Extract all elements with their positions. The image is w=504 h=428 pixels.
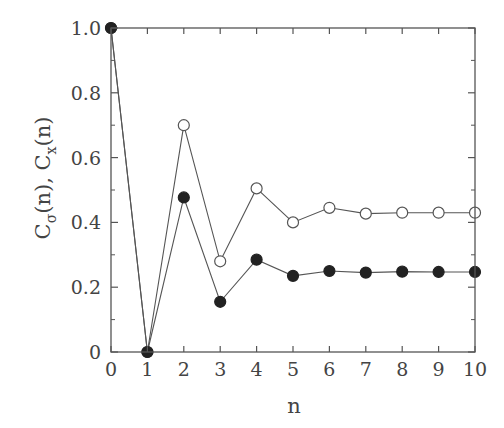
open-circle-marker — [360, 208, 371, 219]
y-tick-label: 0.8 — [71, 82, 101, 104]
open-circle-marker — [178, 120, 189, 131]
x-tick-label: 5 — [287, 358, 299, 380]
x-tick-label: 0 — [105, 358, 117, 380]
y-tick-label: 0.4 — [71, 211, 101, 233]
filled-circle-marker — [215, 296, 226, 307]
y-axis-title: Cσ(n), Cx(n) — [31, 117, 59, 240]
filled-circle-marker — [288, 270, 299, 281]
x-tick-label: 2 — [178, 358, 190, 380]
x-axis-title: n — [287, 394, 301, 418]
x-tick-label: 1 — [141, 358, 153, 380]
x-tick-label: 9 — [433, 358, 445, 380]
filled-circle-marker — [251, 254, 262, 265]
plot-frame — [111, 28, 475, 352]
y-tick-label: 0 — [89, 341, 101, 363]
y-tick-label: 0.6 — [71, 147, 101, 169]
open-circle-marker — [324, 202, 335, 213]
open-circle-marker — [288, 217, 299, 228]
y-tick-label: 1.0 — [71, 17, 101, 39]
x-axis-ticks: 012345678910 — [105, 28, 487, 380]
y-axis-ticks: 00.20.40.60.81.0 — [71, 17, 475, 363]
filled-circle-marker — [178, 192, 189, 203]
x-tick-label: 7 — [360, 358, 372, 380]
filled-circle-marker — [397, 266, 408, 277]
open-circle-marker — [251, 183, 262, 194]
x-tick-label: 6 — [323, 358, 335, 380]
x-tick-label: 3 — [214, 358, 226, 380]
open-circle-marker — [215, 256, 226, 267]
filled-circle-marker — [433, 266, 444, 277]
x-tick-label: 10 — [463, 358, 487, 380]
x-tick-label: 8 — [396, 358, 408, 380]
open-circle-marker — [397, 207, 408, 218]
series-line — [111, 28, 475, 352]
series-layer — [106, 23, 481, 358]
y-tick-label: 0.2 — [71, 276, 101, 298]
series-line — [111, 28, 475, 352]
chart: 012345678910 00.20.40.60.81.0 n Cσ(n), C… — [0, 0, 504, 428]
filled-circle-marker — [324, 266, 335, 277]
filled-circle-marker — [360, 267, 371, 278]
x-tick-label: 4 — [251, 358, 263, 380]
open-circle-marker — [433, 207, 444, 218]
